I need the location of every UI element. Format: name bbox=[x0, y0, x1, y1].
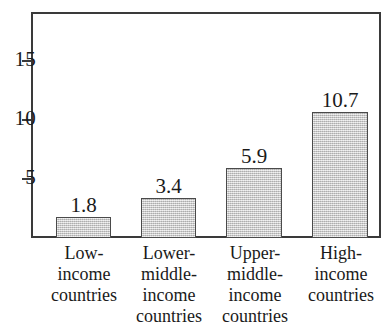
bar-upper-middle-income bbox=[226, 168, 282, 238]
bar-chart: 15 10 5 1.8 3.4 5.9 10.7 Low- income cou… bbox=[0, 0, 392, 327]
x-category-line: High- bbox=[298, 243, 384, 264]
x-category-line: Low- bbox=[42, 243, 126, 264]
bar-low-income bbox=[56, 217, 111, 238]
x-category-label-high-income: High- income countries bbox=[298, 243, 384, 306]
x-category-line: countries bbox=[126, 306, 212, 327]
x-category-line: middle- bbox=[126, 264, 212, 285]
y-tick-label-5: 5 bbox=[2, 167, 36, 188]
bar-value-label-upper-middle-income: 5.9 bbox=[221, 145, 287, 167]
y-tick-label-15: 15 bbox=[2, 49, 36, 70]
bar-value-label-lower-middle-income: 3.4 bbox=[136, 175, 201, 197]
x-category-line: countries bbox=[212, 306, 298, 327]
x-category-line: income bbox=[298, 264, 384, 285]
x-category-label-upper-middle-income: Upper- middle- income countries bbox=[212, 243, 298, 327]
x-category-line: income bbox=[42, 264, 126, 285]
x-category-line: countries bbox=[298, 285, 384, 306]
bar-value-label-low-income: 1.8 bbox=[51, 194, 116, 216]
x-category-line: income bbox=[212, 285, 298, 306]
x-category-line: middle- bbox=[212, 264, 298, 285]
y-tick-label-10: 10 bbox=[2, 108, 36, 129]
bar-lower-middle-income bbox=[141, 198, 196, 238]
x-category-line: Upper- bbox=[212, 243, 298, 264]
x-category-line: income bbox=[126, 285, 212, 306]
x-category-label-lower-middle-income: Lower- middle- income countries bbox=[126, 243, 212, 327]
x-category-line: Lower- bbox=[126, 243, 212, 264]
bar-value-label-high-income: 10.7 bbox=[305, 89, 375, 111]
x-category-line: countries bbox=[42, 285, 126, 306]
x-category-label-low-income: Low- income countries bbox=[42, 243, 126, 306]
bar-high-income bbox=[312, 112, 368, 238]
